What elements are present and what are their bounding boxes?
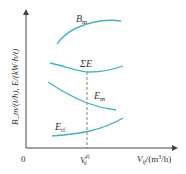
chart: B_m/(t/h), E/(kW·h/t) 0 Vtf/(m3/h) Vzjtf…	[0, 0, 186, 174]
bm-curve	[57, 20, 121, 44]
em-curve	[48, 82, 116, 110]
bm-label: Bm	[76, 13, 87, 25]
sigma-e-label: ΣE	[79, 58, 92, 69]
optimum-marker-label: Vzjtf	[80, 153, 90, 166]
etf-label: Etf	[54, 121, 66, 133]
em-label: Em	[93, 90, 105, 102]
y-axis-label: B_m/(t/h), E/(kW·h/t)	[10, 49, 20, 125]
x-axis-label: Vtf/(m3/h)	[137, 154, 171, 165]
origin-label: 0	[21, 154, 26, 164]
